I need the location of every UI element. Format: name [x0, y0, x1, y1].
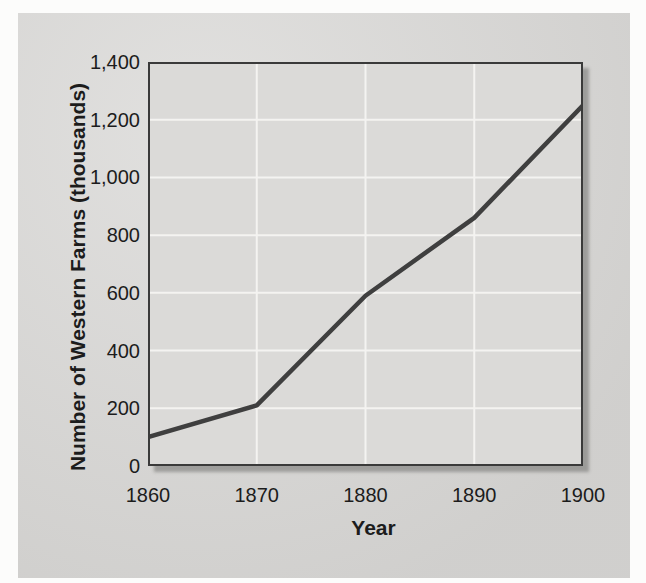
y-tick-label: 600 [32, 281, 140, 305]
plot-area [148, 62, 583, 466]
y-tick-label: 1,000 [32, 165, 140, 189]
x-tick-label: 1890 [429, 483, 519, 507]
y-tick-label: 200 [32, 396, 140, 420]
x-tick-label: 1870 [212, 483, 302, 507]
x-tick-label: 1880 [321, 483, 411, 507]
y-tick-label: 1,400 [32, 50, 140, 74]
x-tick-label: 1860 [103, 483, 193, 507]
x-axis-title: Year [313, 516, 434, 540]
line-chart-svg [148, 62, 583, 466]
y-tick-label: 400 [32, 339, 140, 363]
y-tick-label: 0 [32, 454, 140, 478]
y-tick-label: 800 [32, 223, 140, 247]
x-tick-label: 1900 [538, 483, 628, 507]
chart-figure: Number of Western Farms (thousands) 0200… [0, 0, 646, 583]
y-tick-label: 1,200 [32, 108, 140, 132]
chart-panel: Number of Western Farms (thousands) 0200… [18, 13, 630, 578]
